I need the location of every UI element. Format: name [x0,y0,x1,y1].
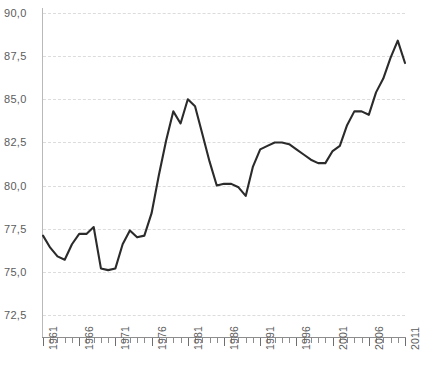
x-axis-minor-tick [181,338,182,343]
x-axis-major-tick [296,338,297,346]
data-series-line [0,0,421,392]
y-axis-tick-label: 82,5 [4,136,27,148]
x-axis-tick-label: 1961 [47,326,59,350]
x-axis-minor-tick [144,338,145,343]
x-axis-minor-tick [253,338,254,343]
x-axis-tick-label: 1986 [228,326,240,350]
x-axis-minor-tick [65,338,66,343]
x-axis-minor-tick [354,338,355,343]
gridline [43,142,405,143]
x-axis-minor-tick [398,338,399,343]
x-axis-minor-tick [72,338,73,343]
y-axis-tick-label: 87,5 [4,50,27,62]
y-axis-line [42,8,43,338]
x-axis-major-tick [188,338,189,346]
x-axis-minor-tick [318,338,319,343]
x-axis-tick-label: 2011 [409,327,421,350]
x-axis-minor-tick [108,338,109,343]
x-axis-major-tick [152,338,153,346]
x-axis-minor-tick [289,338,290,343]
x-axis-major-tick [115,338,116,346]
x-axis-major-tick [260,338,261,346]
gridline [43,272,405,273]
gridline [43,99,405,100]
x-axis-minor-tick [325,338,326,343]
gridline [43,13,405,14]
x-axis-minor-tick [101,338,102,343]
x-axis-minor-tick [210,338,211,343]
x-axis-minor-tick [246,338,247,343]
gridline [43,229,405,230]
x-axis-minor-tick [362,338,363,343]
y-axis-tick-label: 80,0 [4,180,27,192]
x-axis-major-tick [405,338,406,346]
gridline [43,186,405,187]
x-axis-minor-tick [217,338,218,343]
y-axis-tick-label: 75,0 [4,266,27,278]
x-axis-major-tick [224,338,225,346]
x-axis-tick-label: 2001 [337,326,349,350]
x-axis-tick-label: 1991 [264,326,276,350]
x-axis-tick-label: 1976 [156,326,168,350]
y-axis-tick-label: 77,5 [4,223,27,235]
x-axis-minor-tick [137,338,138,343]
x-axis-tick-label: 1996 [300,326,312,350]
x-axis-major-tick [79,338,80,346]
x-axis-tick-label: 1966 [83,326,95,350]
x-axis-tick-label: 2006 [373,326,385,350]
x-axis-tick-label: 1971 [119,326,131,350]
x-axis-minor-tick [282,338,283,343]
y-axis-tick-label: 85,0 [4,93,27,105]
y-axis-tick-label: 90,0 [4,7,27,19]
gridline [43,56,405,57]
x-axis-major-tick [369,338,370,346]
x-axis-tick-label: 1981 [192,326,204,350]
x-axis-major-tick [43,338,44,346]
x-axis-minor-tick [391,338,392,343]
x-axis-major-tick [333,338,334,346]
line-chart: 90,087,585,082,580,077,575,072,5 1961196… [0,0,421,392]
gridline [43,315,405,316]
x-axis-minor-tick [173,338,174,343]
y-axis-tick-label: 72,5 [4,309,27,321]
